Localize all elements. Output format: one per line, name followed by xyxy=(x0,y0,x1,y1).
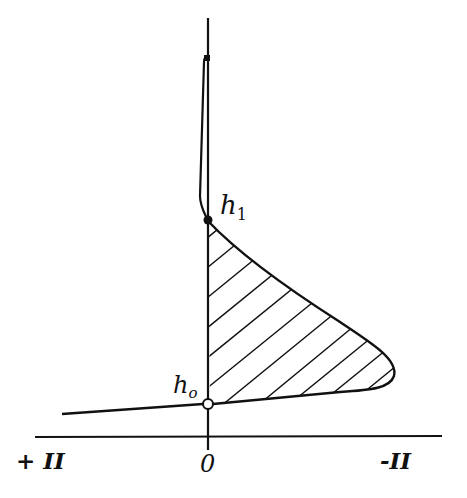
axis-label-minus-pi: -II xyxy=(380,447,412,474)
h0-label: ho xyxy=(173,371,198,402)
horizontal-axis xyxy=(35,436,442,437)
hatch-region xyxy=(180,195,450,420)
lower-trajectory-left xyxy=(62,404,203,414)
h1-point xyxy=(204,216,213,225)
axis-label-plus-pi: + II xyxy=(16,447,66,474)
phase-diagram: h1 ho + II 0 -II xyxy=(0,0,467,498)
upper-loop-curve xyxy=(200,56,208,221)
loop-top-mark xyxy=(204,55,210,61)
axis-label-zero: 0 xyxy=(200,450,215,478)
h1-label: h1 xyxy=(220,190,247,224)
h0-point xyxy=(203,399,213,409)
